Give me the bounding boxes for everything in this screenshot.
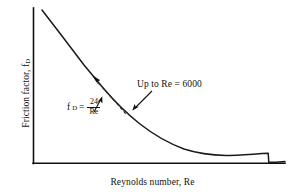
y-axis-label: Friction factor, fD <box>21 38 32 148</box>
formula-fraction: 24 Re <box>87 98 100 116</box>
x-axis-label-text: Reynolds number, Re <box>110 177 194 187</box>
laminar-formula-annotation: fD = 24 Re <box>67 98 101 116</box>
formula-numerator: 24 <box>88 98 100 107</box>
transition-annotation-label: Up to Re = 6000 <box>137 79 202 89</box>
formula-denominator: Re <box>87 108 100 117</box>
plot-area <box>0 0 305 195</box>
transition-annotation-text: Up to Re = 6000 <box>137 79 202 89</box>
x-axis-label: Reynolds number, Re <box>0 177 305 187</box>
formula-equals-sign: = <box>79 102 84 112</box>
transition-label-leader-line <box>135 91 152 108</box>
y-axis-label-text: Friction factor, f <box>21 64 31 128</box>
friction-factor-figure: Friction factor, fD Reynolds number, Re … <box>0 0 305 195</box>
formula-lhs-subscript: D <box>72 104 77 111</box>
y-axis-label-subscript: D <box>24 59 31 64</box>
formula-lhs-symbol: f <box>67 102 70 112</box>
